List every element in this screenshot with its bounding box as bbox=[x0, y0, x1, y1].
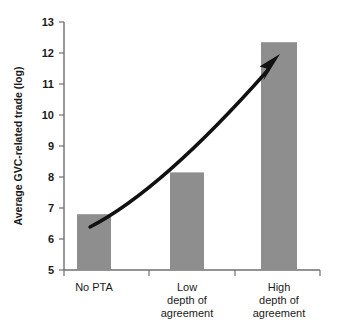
y-axis-title: Average GVC-related trade (log) bbox=[12, 67, 24, 226]
category-label-low-line1: Low bbox=[177, 281, 197, 293]
x-axis-category-labels: No PTA Low depth of agreement High depth… bbox=[75, 281, 305, 319]
y-tick-label-11: 11 bbox=[42, 78, 54, 90]
category-label-high-line1: High bbox=[268, 281, 291, 293]
category-label-no-pta: No PTA bbox=[75, 281, 113, 293]
x-axis-ticks bbox=[64, 270, 320, 276]
y-tick-label-10: 10 bbox=[42, 109, 54, 121]
y-axis-ticks: 13 12 11 10 9 8 7 6 5 bbox=[42, 16, 64, 276]
category-label-low-line2: depth of bbox=[167, 294, 208, 306]
chart-container: Average GVC-related trade (log) 13 12 11… bbox=[0, 0, 339, 328]
y-tick-label-12: 12 bbox=[42, 47, 54, 59]
y-tick-label-6: 6 bbox=[48, 233, 54, 245]
category-label-high-line2: depth of bbox=[259, 294, 300, 306]
bar-low-depth bbox=[170, 172, 204, 270]
y-tick-label-9: 9 bbox=[48, 140, 54, 152]
y-tick-label-13: 13 bbox=[42, 16, 54, 28]
bar-chart: Average GVC-related trade (log) 13 12 11… bbox=[0, 0, 339, 328]
y-tick-label-8: 8 bbox=[48, 171, 54, 183]
category-label-low-line3: agreement bbox=[161, 307, 214, 319]
y-tick-label-5: 5 bbox=[48, 264, 54, 276]
category-label-high-line3: agreement bbox=[253, 307, 306, 319]
bar-high-depth bbox=[261, 42, 297, 270]
y-axis-title-text: Average GVC-related trade (log) bbox=[12, 67, 24, 226]
bar-no-pta bbox=[77, 214, 111, 270]
y-tick-label-7: 7 bbox=[48, 202, 54, 214]
